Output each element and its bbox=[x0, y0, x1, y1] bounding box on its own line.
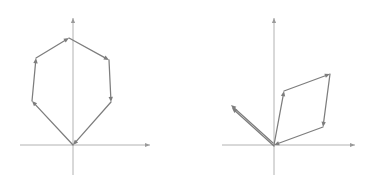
right-panel-vector-w2-arrow-icon bbox=[281, 91, 285, 97]
right-panel-vector-w1-lower bbox=[234, 110, 274, 146]
left-panel-vector-v2-arrow-icon bbox=[33, 58, 37, 63]
left-panel-y-axis-arrow-icon bbox=[71, 18, 75, 23]
left-panel-vector-v2 bbox=[32, 61, 36, 101]
right-panel-vector-w5 bbox=[277, 127, 323, 144]
right-panel-vector-w1-upper bbox=[233, 107, 273, 143]
right-panel-vector-w4 bbox=[323, 74, 330, 124]
right-panel-vector-w2 bbox=[274, 94, 283, 145]
left-panel-vector-v5 bbox=[109, 60, 111, 99]
left-panel-vector-v3 bbox=[36, 39, 67, 58]
left-panel-x-axis-arrow-icon bbox=[145, 143, 150, 147]
right-panel-x-axis-arrow-icon bbox=[350, 143, 355, 147]
right-panel-y-axis-arrow-icon bbox=[272, 18, 276, 23]
diagram-canvas bbox=[0, 0, 368, 191]
closed-hexagon-vector-chain bbox=[20, 18, 150, 175]
right-panel-vector-w3 bbox=[284, 75, 327, 91]
left-panel-vector-v5-arrow-icon bbox=[109, 97, 113, 102]
parallelogram-vector-chain bbox=[222, 18, 355, 175]
vector-diagram-figure bbox=[0, 0, 368, 191]
left-panel-vector-v4 bbox=[69, 38, 106, 59]
left-panel-vector-v1 bbox=[34, 103, 73, 145]
left-panel-vector-v6 bbox=[75, 102, 111, 143]
right-panel-vector-w4-arrow-icon bbox=[322, 122, 326, 127]
